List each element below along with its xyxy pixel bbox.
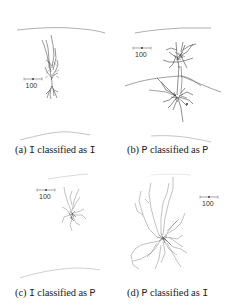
caption-text: classified as <box>150 287 200 298</box>
caption-d: (d) P classified as I <box>127 287 208 299</box>
panel-c: 100 (c) I classified as P <box>0 153 121 306</box>
scale-bar-c: 100 <box>37 189 55 201</box>
scale-bar-label-a: 100 <box>26 82 38 89</box>
predicted-class: I <box>202 288 208 299</box>
panel-b: 100 (b) P classified as P <box>121 0 243 153</box>
caption-label: (c) <box>15 287 26 298</box>
scale-bar-label-d: 100 <box>202 200 214 207</box>
caption-text: classified as <box>37 287 87 298</box>
neuron-morphology-a: 100 <box>0 0 121 153</box>
panel-a: 100 (a) I classified as I <box>0 0 121 153</box>
caption-c: (c) I classified as P <box>15 287 96 299</box>
figure: 100 (a) I classified as I <box>0 0 243 306</box>
scale-bar-label-b: 100 <box>135 51 147 58</box>
scale-bar-b: 100 <box>133 47 151 59</box>
neuron-morphology-c: 100 <box>0 153 121 306</box>
caption-label: (d) <box>127 287 139 298</box>
neuron-morphology-b: 100 <box>121 0 243 153</box>
panel-d: 100 (d) P classified as I <box>121 153 243 306</box>
scale-bar-label-c: 100 <box>39 193 51 200</box>
neuron-morphology-d: 100 <box>121 153 243 306</box>
scale-bar-a: 100 <box>24 78 42 90</box>
predicted-class: P <box>90 288 96 299</box>
true-class: I <box>29 288 35 299</box>
true-class: P <box>141 288 147 299</box>
scale-bar-d: 100 <box>200 196 218 208</box>
